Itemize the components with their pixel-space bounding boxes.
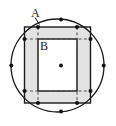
white-mask-left bbox=[0, 0, 25, 126]
dot-right-upper bbox=[89, 37, 93, 41]
dot-top-right bbox=[75, 25, 79, 29]
dot-right bbox=[102, 64, 106, 68]
dot-left-lower bbox=[23, 89, 27, 93]
figure-container: A B bbox=[0, 0, 115, 126]
dot-bottom bbox=[59, 110, 63, 114]
dot-left-upper bbox=[23, 37, 27, 41]
center-dot bbox=[59, 64, 63, 68]
dot-top-left bbox=[36, 25, 40, 29]
dot-bottom-right bbox=[75, 101, 79, 105]
white-mask-right bbox=[91, 0, 116, 126]
dot-right-lower bbox=[89, 89, 93, 93]
label-a: A bbox=[31, 6, 40, 20]
dot-left bbox=[9, 64, 13, 68]
label-b: B bbox=[40, 39, 48, 53]
geometry-figure: A B bbox=[0, 0, 115, 126]
dot-bottom-left bbox=[36, 101, 40, 105]
dot-top bbox=[59, 17, 63, 21]
